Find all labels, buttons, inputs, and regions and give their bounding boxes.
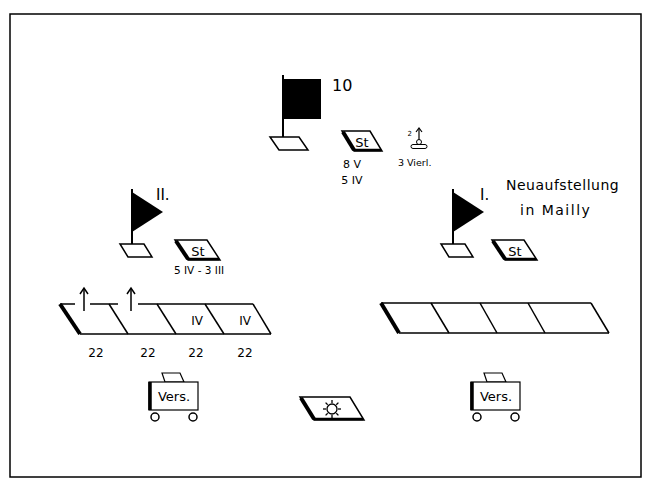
staff-label: St — [191, 244, 204, 259]
machine-gun-icon — [411, 128, 427, 149]
arrow-up-icon — [127, 288, 135, 311]
supply-label: Vers. — [480, 389, 512, 404]
company-strength: 22 — [188, 346, 203, 360]
company-strength: 22 — [88, 346, 103, 360]
regiment-hq-flag — [270, 75, 321, 150]
battalion-i-companies — [381, 303, 609, 333]
arrow-up-icon — [80, 288, 88, 311]
center-unit-box — [300, 397, 364, 420]
staff-strength-1: 8 V — [343, 158, 361, 171]
battalion-i-staff-box: St — [492, 240, 537, 260]
company-marker: IV — [239, 314, 252, 328]
company-marker: IV — [191, 314, 204, 328]
supply-wagon-icon: Vers. — [149, 373, 198, 421]
battalion-ii-staff-box: St — [175, 240, 220, 260]
battalion-ii-companies: IV IV — [60, 288, 271, 334]
regiment-staff-box: St — [342, 131, 382, 151]
company-strength: 22 — [237, 346, 252, 360]
staff-label: St — [508, 244, 521, 259]
sun-icon — [323, 400, 341, 418]
battalion-ii-label: II. — [156, 186, 170, 204]
supply-wagon-icon: Vers. — [471, 373, 520, 421]
battalion-i-flag — [441, 189, 484, 257]
mg-unit-label: 3 Vierl. — [398, 157, 431, 168]
flag-base-icon — [270, 137, 308, 150]
supply-label: Vers. — [158, 389, 190, 404]
mg-count: 2 — [408, 130, 412, 138]
flag-square-icon — [283, 79, 321, 119]
staff-strength-2: 5 IV — [341, 174, 363, 187]
order-of-battle-diagram: 10 St 8 V 5 IV 2 3 Vierl. II. St 5 IV - … — [0, 0, 647, 484]
note-line-1: Neuaufstellung — [506, 177, 619, 193]
regiment-number: 10 — [332, 76, 352, 95]
battalion-ii-staff-strength: 5 IV - 3 III — [174, 264, 224, 276]
battalion-i-label: I. — [480, 186, 489, 204]
note-line-2: in Mailly — [520, 202, 591, 218]
staff-label: St — [355, 135, 368, 150]
company-strength: 22 — [140, 346, 155, 360]
